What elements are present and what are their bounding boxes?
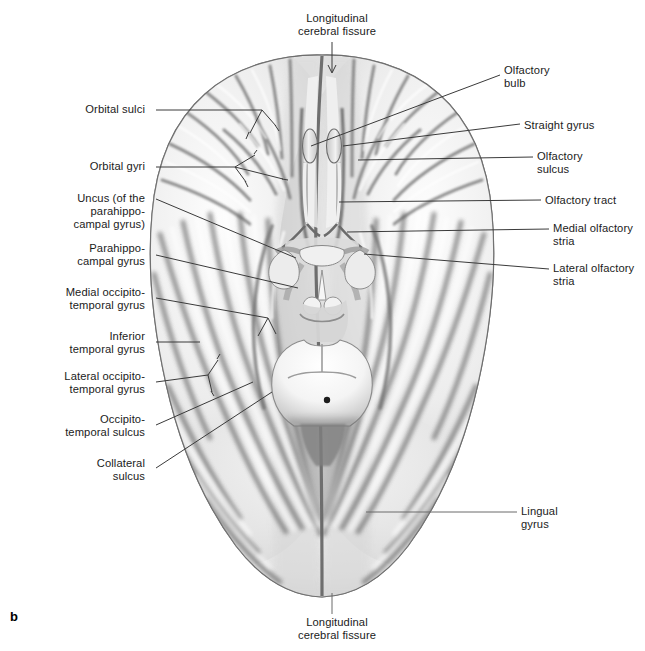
label-lingual-gyrus: Lingual gyrus <box>521 505 631 531</box>
brain-inferior-view-illustration <box>0 0 645 651</box>
label-olfactory-bulb: Olfactory bulb <box>504 64 644 90</box>
label-lateral-occipitotemporal-gyrus: Lateral occipito- temporal gyrus <box>0 370 145 396</box>
label-medial-occipitotemporal-gyrus: Medial occipito- temporal gyrus <box>0 286 145 312</box>
label-longitudinal-cerebral-fissure-bottom: Longitudinal cerebral fissure <box>237 616 437 642</box>
brain-body <box>118 35 526 640</box>
label-parahippocampal-gyrus: Parahippo- campal gyrus <box>0 242 145 268</box>
label-uncus-of-parahippocampal-gyrus: Uncus (of the parahippo- campal gyrus) <box>0 192 145 232</box>
figure-letter: b <box>10 609 18 624</box>
optic-chiasm <box>300 246 345 267</box>
label-olfactory-sulcus: Olfactory sulcus <box>537 150 645 176</box>
label-straight-gyrus: Straight gyrus <box>524 119 644 132</box>
label-occipitotemporal-sulcus: Occipito- temporal sulcus <box>0 413 145 439</box>
label-orbital-sulci: Orbital sulci <box>0 103 145 116</box>
label-orbital-gyri: Orbital gyri <box>0 160 145 173</box>
label-medial-olfactory-stria: Medial olfactory stria <box>553 222 645 248</box>
label-inferior-temporal-gyrus: Inferior temporal gyrus <box>0 330 145 356</box>
label-lateral-olfactory-stria: Lateral olfactory stria <box>553 262 645 288</box>
anatomical-figure: Longitudinal cerebral fissure Longitudin… <box>0 0 645 651</box>
olfactory-bulb-left <box>303 129 318 163</box>
label-collateral-sulcus: Collateral sulcus <box>0 457 145 483</box>
olfactory-bulb-right <box>327 129 342 163</box>
label-longitudinal-cerebral-fissure-top: Longitudinal cerebral fissure <box>237 12 437 38</box>
label-olfactory-tract: Olfactory tract <box>545 194 645 207</box>
basilar-artery-marker <box>324 397 330 403</box>
